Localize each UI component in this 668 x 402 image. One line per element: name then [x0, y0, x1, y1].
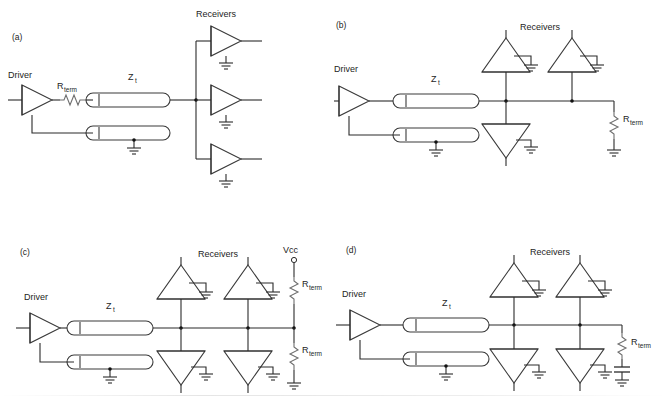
figure-canvas: (a) Driver Receivers R term [0, 0, 668, 402]
panel-b-ground-termination [607, 150, 621, 156]
panel-d-zt-sub: t [449, 303, 451, 310]
panel-c-receiver-4 [224, 328, 280, 393]
panel-d-receiver-3 [490, 325, 546, 391]
panel-c-vcc-terminal [291, 257, 296, 262]
panel-b-receiver-3 [482, 101, 538, 166]
panel-d-zt-label: Z [442, 298, 448, 308]
panel-c-schematic: (c) Driver Receivers Z t [0, 225, 334, 402]
panel-b-schematic: (b) Driver Receivers Z t [334, 0, 668, 201]
panel-d-driver [336, 310, 410, 340]
panel-d-rterm-label: R [631, 337, 638, 347]
panel-b-driver-label: Driver [334, 64, 358, 74]
panel-a-zt-sub: t [135, 77, 137, 84]
panel-c-receiver-3 [157, 328, 213, 393]
panel-a-zt-label: Z [128, 72, 134, 82]
panel-a-receiver-2 [196, 85, 262, 128]
panel-a-receivers-label: Receivers [196, 9, 237, 19]
panel-c-driver [16, 313, 74, 343]
panel-b-driver [334, 86, 400, 116]
panel-a: (a) Driver Receivers R term [0, 0, 334, 201]
panel-d-ground-termination [615, 380, 629, 386]
panel-c: (c) Driver Receivers Z t [0, 225, 334, 402]
panel-c-rterm-bottom-label: R [302, 345, 309, 355]
panel-c-rterm-top-sub: term [309, 284, 322, 291]
panel-d-tline-signal: Z t [403, 298, 622, 332]
panel-c-rterm-bottom-sub: term [309, 350, 322, 357]
panel-a-schematic: (a) Driver Receivers R term [0, 0, 334, 201]
panel-a-series-resistor: R term [57, 81, 86, 105]
panel-d-ground-return [439, 374, 453, 380]
panel-c-receivers-label: Receivers [198, 249, 239, 259]
panel-a-rterm-sub: term [64, 86, 77, 93]
panel-b-receivers-label: Receivers [520, 22, 561, 32]
panel-d-schematic: (d) Driver Receivers Z t [334, 225, 668, 402]
panel-b-rterm-sub: term [630, 119, 643, 126]
panel-d-capacitor [614, 367, 630, 380]
panel-c-zt-sub: t [113, 306, 115, 313]
panel-d-rterm-sub: term [638, 342, 651, 349]
panel-d-receiver-1 [490, 255, 546, 327]
panel-a-receiver-3 [196, 144, 262, 187]
panel-b-receiver-1 [482, 30, 538, 103]
panel-d-driver-label: Driver [342, 289, 366, 299]
panel-b-rterm-label: R [623, 114, 630, 124]
panel-c-vcc-label: Vcc [283, 245, 299, 255]
panel-c-tline-return [40, 343, 153, 383]
panel-b-zt-label: Z [431, 74, 437, 84]
scan-artifact-line [0, 395, 668, 396]
panel-d: (d) Driver Receivers Z t [334, 225, 668, 402]
panel-a-tline-signal: Z t [86, 72, 196, 107]
panel-c-ground-termination [287, 383, 301, 389]
panel-c-receiver-2 [224, 257, 280, 330]
panel-d-receiver-4 [556, 325, 612, 391]
panel-a-tag: (a) [12, 32, 23, 42]
panel-c-receiver-1 [157, 257, 213, 330]
panel-a-receiver-1 [196, 26, 262, 69]
panel-a-driver [8, 85, 60, 115]
panel-c-zt-label: Z [106, 301, 112, 311]
panel-a-rterm-label: R [57, 81, 64, 91]
panel-c-tag: (c) [20, 247, 30, 257]
panel-d-tline-return [360, 340, 489, 380]
panel-b-ground-return [429, 150, 443, 156]
panel-b: (b) Driver Receivers Z t [334, 0, 668, 201]
panel-b-tag: (b) [336, 20, 347, 30]
panel-d-tag: (d) [346, 245, 357, 255]
panel-b-receiver-2 [548, 30, 604, 103]
panel-d-receiver-2 [556, 255, 612, 327]
panel-d-rc-termination: R term [614, 325, 651, 386]
panel-a-tline-return [32, 115, 170, 154]
panel-c-ground-return [103, 377, 117, 383]
panel-c-rterm-top-label: R [302, 279, 309, 289]
panel-b-end-termination: R term [607, 101, 643, 156]
panel-c-thevenin-termination: Vcc R term R term [283, 245, 322, 389]
panel-b-tline-signal: Z t [393, 74, 614, 108]
panel-a-ground-return [127, 148, 141, 154]
panel-b-zt-sub: t [438, 79, 440, 86]
panel-b-tline-return [349, 116, 479, 156]
panel-d-receivers-label: Receivers [530, 247, 571, 257]
panel-c-driver-label: Driver [24, 292, 48, 302]
panel-a-driver-label: Driver [8, 70, 32, 80]
